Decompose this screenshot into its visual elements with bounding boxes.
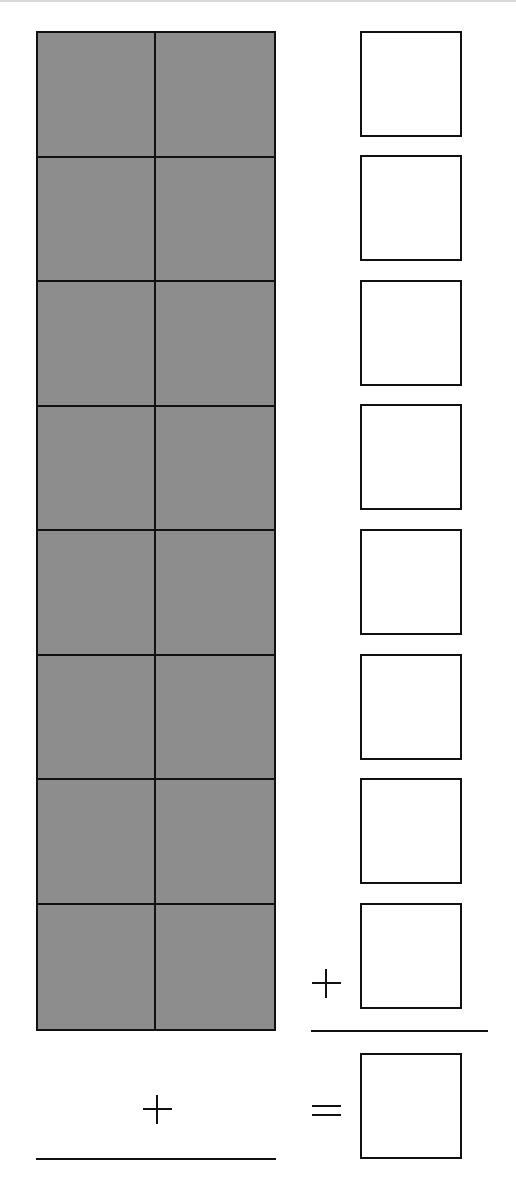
grid-cell	[156, 407, 274, 532]
grid-cell	[38, 656, 156, 781]
sum-answer-box[interactable]	[360, 1053, 462, 1159]
grid-cell	[156, 158, 274, 283]
answer-box-1[interactable]	[360, 31, 462, 137]
grid-cell	[38, 158, 156, 283]
answer-box-8[interactable]	[360, 903, 462, 1009]
grid-cell	[156, 780, 274, 905]
equals-sign-icon	[312, 1105, 341, 1116]
answer-box-3[interactable]	[360, 280, 462, 386]
answer-box-4[interactable]	[360, 404, 462, 510]
answer-box-5[interactable]	[360, 529, 462, 635]
grid-cell	[38, 780, 156, 905]
answer-box-7[interactable]	[360, 778, 462, 884]
grid-cell	[156, 531, 274, 656]
page-top-edge	[0, 0, 516, 2]
grid-cell	[156, 33, 274, 158]
grid-cell	[38, 407, 156, 532]
grid-cell	[38, 531, 156, 656]
left-answer-line[interactable]	[36, 1158, 276, 1160]
grid-cell	[156, 905, 274, 1030]
plus-sign-icon-left	[143, 1095, 172, 1124]
sum-line	[311, 1030, 488, 1032]
grid-cell	[156, 656, 274, 781]
answer-box-6[interactable]	[360, 654, 462, 760]
plus-sign-icon	[312, 969, 341, 998]
grid-cell	[38, 905, 156, 1030]
shaded-block-grid	[36, 31, 276, 1031]
grid-cell	[38, 282, 156, 407]
grid-cell	[156, 282, 274, 407]
grid-cell	[38, 33, 156, 158]
answer-box-2[interactable]	[360, 155, 462, 261]
